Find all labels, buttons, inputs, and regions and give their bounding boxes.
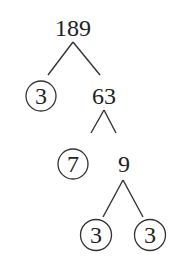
node-3-prime-left: 3: [90, 222, 102, 248]
node-9: 9: [118, 151, 130, 177]
edge-189-63: [73, 42, 100, 75]
node-3-prime: 3: [35, 83, 47, 109]
edge-63-9: [104, 110, 116, 133]
node-189: 189: [55, 15, 91, 41]
edge-189-3: [48, 42, 73, 75]
node-7-prime: 7: [67, 151, 79, 177]
node-3-prime-right: 3: [144, 222, 156, 248]
node-63: 63: [92, 83, 116, 109]
edge-9-3-right: [123, 180, 143, 217]
edge-9-3-left: [103, 180, 123, 217]
factor-tree-diagram: 189 3 63 7 9 3 3: [0, 0, 180, 264]
edge-63-7: [91, 110, 104, 133]
